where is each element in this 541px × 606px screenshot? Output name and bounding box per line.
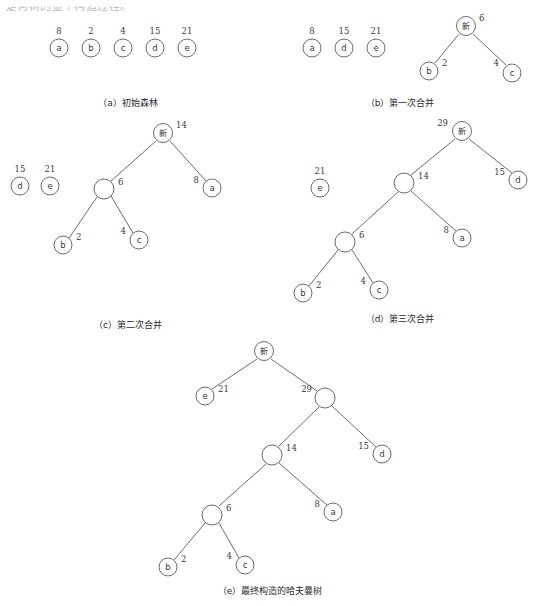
tree-edge bbox=[111, 141, 156, 181]
node-label: e bbox=[47, 181, 52, 191]
node-label: a bbox=[459, 233, 464, 243]
node-weight: 29 bbox=[437, 118, 448, 128]
tree-node-leaf-a: a8 bbox=[303, 26, 321, 57]
tree-node-leaf-e: e21 bbox=[367, 26, 385, 57]
tree-edge bbox=[174, 523, 205, 560]
node-label: a bbox=[309, 43, 314, 53]
node-label: 新 bbox=[260, 346, 268, 356]
tree-node-leaf-e: e21 bbox=[311, 166, 329, 197]
node-label: c bbox=[121, 43, 126, 53]
tree-edge bbox=[309, 250, 338, 286]
node-label: e bbox=[202, 391, 207, 401]
node-label: d bbox=[341, 43, 346, 53]
node-weight: 29 bbox=[301, 384, 312, 394]
node-weight: 8 bbox=[309, 26, 314, 36]
tree-node-leaf-c: c4 bbox=[494, 58, 521, 82]
node-label: b bbox=[426, 66, 431, 76]
node-weight: 2 bbox=[76, 232, 81, 242]
tree-node-merge: 新29 bbox=[437, 118, 471, 141]
node-weight: 2 bbox=[442, 58, 447, 68]
node-circle bbox=[394, 173, 414, 193]
panel-c: d15e21新146a8b2c4（c）第二次合并 bbox=[11, 120, 221, 330]
tree-node-leaf-c: c4 bbox=[121, 226, 148, 249]
tree-node-internal: 6 bbox=[94, 177, 123, 199]
node-weight: 6 bbox=[226, 503, 231, 513]
tree-edge bbox=[279, 407, 319, 446]
tree-node-leaf-c: c4 bbox=[361, 276, 388, 299]
node-weight: 4 bbox=[494, 58, 499, 68]
tree-edge bbox=[469, 139, 512, 173]
tree-node-leaf-b: b2 bbox=[159, 554, 186, 576]
tree-edge bbox=[473, 34, 506, 65]
panel-a: a8b2c4d15e21（a）初始森林 bbox=[50, 26, 196, 108]
node-weight: 15 bbox=[494, 167, 505, 177]
node-label: 新 bbox=[462, 21, 470, 31]
tree-node-leaf-a: a8 bbox=[194, 175, 221, 197]
node-weight: 8 bbox=[56, 26, 61, 36]
node-weight: 21 bbox=[371, 26, 382, 36]
node-weight: 4 bbox=[227, 551, 232, 561]
node-weight: 21 bbox=[218, 384, 229, 394]
node-weight: 6 bbox=[118, 177, 123, 187]
node-label: e bbox=[184, 43, 189, 53]
tree-node-merge: 新6 bbox=[457, 13, 485, 36]
node-weight: 14 bbox=[176, 120, 187, 130]
node-weight: 6 bbox=[479, 13, 484, 23]
tree-node-leaf-e: e21 bbox=[41, 164, 59, 195]
tree-edge bbox=[411, 139, 455, 175]
tree-node-leaf-e: e21 bbox=[178, 26, 196, 57]
node-weight: 15 bbox=[15, 164, 26, 174]
panel-d: e21新2914d156a8b2c4（d）第三次合并 bbox=[294, 118, 527, 324]
node-label: c bbox=[377, 285, 382, 295]
node-circle bbox=[202, 505, 222, 525]
panel-caption-a: （a）初始森林 bbox=[98, 97, 158, 108]
panel-b: a8d15e21新6b2c4（b）第一次合并 bbox=[303, 13, 521, 108]
node-weight: 8 bbox=[194, 175, 199, 185]
node-weight: 4 bbox=[361, 276, 366, 286]
tree-edge bbox=[170, 141, 206, 181]
node-weight: 8 bbox=[315, 499, 320, 509]
node-label: b bbox=[300, 288, 305, 298]
node-weight: 14 bbox=[286, 443, 297, 453]
node-label: e bbox=[317, 183, 322, 193]
node-weight: 2 bbox=[88, 26, 93, 36]
tree-node-leaf-d: d15 bbox=[146, 26, 164, 57]
panel-e: 新e212914d156a8b2c4（e）最终构造的哈夫曼树 bbox=[159, 342, 391, 597]
tree-edge bbox=[219, 464, 266, 506]
node-weight: 2 bbox=[181, 554, 186, 564]
node-weight: 4 bbox=[120, 26, 125, 36]
node-label: d bbox=[515, 175, 520, 185]
panel-caption-c: （c）第二次合并 bbox=[94, 319, 162, 330]
tree-node-leaf-d: d15 bbox=[335, 26, 353, 57]
tree-node-leaf-a: a8 bbox=[315, 499, 342, 521]
node-weight: 21 bbox=[45, 164, 56, 174]
tree-node-internal: 6 bbox=[335, 230, 364, 252]
node-label: b bbox=[88, 43, 93, 53]
node-weight: 14 bbox=[418, 171, 429, 181]
node-weight: 4 bbox=[121, 226, 126, 236]
tree-node-internal: 6 bbox=[202, 503, 231, 525]
node-label: d bbox=[379, 449, 384, 459]
node-weight: 6 bbox=[359, 230, 364, 240]
tree-node-leaf-a: a8 bbox=[50, 26, 68, 57]
tree-node-leaf-d: d15 bbox=[358, 441, 391, 463]
panel-caption-d: （d）第三次合并 bbox=[366, 313, 435, 324]
tree-node-leaf-b: b2 bbox=[82, 26, 100, 57]
node-label: b bbox=[60, 240, 65, 250]
tree-edge bbox=[69, 197, 97, 238]
tree-node-leaf-d: d15 bbox=[11, 164, 29, 195]
node-circle bbox=[315, 388, 335, 408]
node-label: c bbox=[510, 68, 515, 78]
tree-node-leaf-b: b2 bbox=[294, 280, 321, 302]
tree-node-leaf-b: b2 bbox=[54, 232, 81, 254]
node-label: c bbox=[243, 560, 248, 570]
tree-node-leaf-c: c4 bbox=[114, 26, 132, 57]
panel-caption-b: （b）第一次合并 bbox=[366, 97, 435, 108]
tree-node-merge: 新 bbox=[255, 342, 274, 361]
node-label: b bbox=[165, 562, 170, 572]
huffman-tree-diagram: a8b2c4d15e21（a）初始森林a8d15e21新6b2c4（b）第一次合… bbox=[0, 0, 541, 606]
node-circle bbox=[94, 179, 114, 199]
node-label: d bbox=[152, 43, 157, 53]
node-weight: 8 bbox=[444, 225, 449, 235]
tree-node-leaf-a: a8 bbox=[444, 225, 471, 247]
